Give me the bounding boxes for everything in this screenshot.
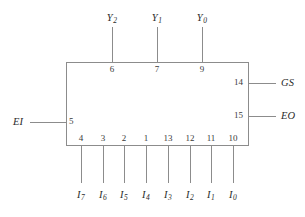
signal-label-i4: I4 bbox=[142, 190, 150, 202]
signal-label-i2: I2 bbox=[186, 190, 194, 202]
pin-number-9: 9 bbox=[200, 65, 205, 74]
signal-label-y2: Y2 bbox=[107, 13, 117, 25]
pin-number-2: 2 bbox=[122, 134, 127, 143]
pin-number-12: 12 bbox=[186, 134, 195, 143]
pin-number-4: 4 bbox=[79, 134, 84, 143]
signal-label-gs: GS bbox=[281, 78, 294, 89]
signal-label-i5: I5 bbox=[120, 190, 128, 202]
signal-label-i3: I3 bbox=[164, 190, 172, 202]
pin-number-3: 3 bbox=[101, 134, 106, 143]
signal-label-i0: I0 bbox=[229, 190, 237, 202]
pin-number-13: 13 bbox=[164, 134, 173, 143]
pin-number-10: 10 bbox=[229, 134, 238, 143]
pin-number-6: 6 bbox=[110, 65, 115, 74]
signal-label-i1: I1 bbox=[207, 190, 215, 202]
signal-label-y0: Y0 bbox=[197, 13, 207, 25]
block-diagram-canvas bbox=[0, 0, 305, 217]
pin-number-14: 14 bbox=[234, 78, 243, 87]
signal-label-i7: I7 bbox=[77, 190, 85, 202]
signal-label-ei: EI bbox=[13, 117, 23, 128]
signal-label-eo: EO bbox=[281, 111, 295, 122]
pin-number-1: 1 bbox=[144, 134, 149, 143]
signal-label-y1: Y1 bbox=[152, 13, 162, 25]
pin-number-5: 5 bbox=[69, 117, 74, 126]
pin-number-7: 7 bbox=[155, 65, 160, 74]
signal-label-i6: I6 bbox=[99, 190, 107, 202]
pin-number-11: 11 bbox=[207, 134, 216, 143]
pin-number-15: 15 bbox=[234, 111, 243, 120]
encoder-body-rect bbox=[66, 62, 248, 145]
